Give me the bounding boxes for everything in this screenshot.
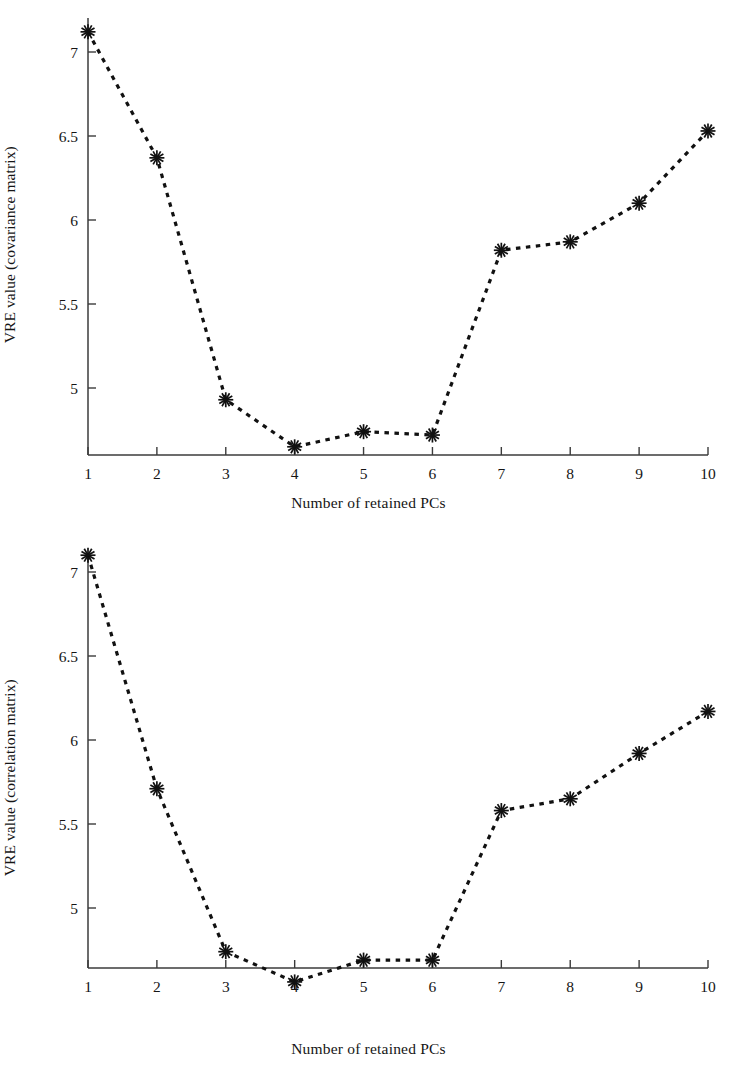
y-axis-tick-label: 6.5 (59, 128, 79, 145)
y-axis-tick-label: 7 (70, 44, 78, 61)
y-axis-tick-label: 6 (70, 212, 78, 229)
data-series-line (88, 32, 708, 447)
data-point-marker (632, 746, 647, 761)
covariance-chart-panel: VRE value (covariance matrix) 55.566.571… (0, 0, 737, 540)
data-series-line (88, 555, 708, 982)
x-axis-tick-label: 8 (566, 978, 574, 995)
data-point-marker (356, 953, 371, 968)
x-axis-tick-label: 5 (360, 465, 368, 482)
data-point-marker (149, 781, 164, 796)
data-point-marker (494, 243, 509, 258)
y-axis-tick-label: 6.5 (59, 648, 79, 665)
covariance-plot-svg: 55.566.5712345678910 (0, 0, 737, 500)
data-point-marker (563, 791, 578, 806)
data-point-marker (494, 803, 509, 818)
y-axis-tick-label: 5.5 (59, 816, 79, 833)
data-point-marker (287, 974, 302, 989)
y-axis-tick-label: 5 (70, 900, 78, 917)
data-point-marker (356, 424, 371, 439)
x-axis-tick-label: 8 (566, 465, 574, 482)
data-point-marker (425, 428, 440, 443)
x-axis-tick-label: 10 (700, 465, 716, 482)
data-point-marker (425, 953, 440, 968)
data-point-marker (563, 234, 578, 249)
x-axis-tick-label: 1 (84, 978, 92, 995)
x-axis-tick-label: 2 (153, 978, 161, 995)
y-axis-tick-label: 5.5 (59, 296, 79, 313)
x-axis-tick-label: 9 (635, 978, 643, 995)
data-point-marker (218, 944, 233, 959)
x-axis-tick-label: 5 (360, 978, 368, 995)
data-point-marker (81, 24, 96, 39)
x-axis-label: Number of retained PCs (0, 494, 737, 512)
x-axis-tick-label: 2 (153, 465, 161, 482)
x-axis-tick-label: 7 (497, 978, 505, 995)
data-point-marker (81, 548, 96, 563)
x-axis-tick-label: 3 (222, 465, 230, 482)
x-axis-tick-label: 10 (700, 978, 716, 995)
x-axis-tick-label: 7 (497, 465, 505, 482)
x-axis-tick-label: 4 (291, 465, 299, 482)
x-axis-tick-label: 9 (635, 465, 643, 482)
data-point-marker (701, 704, 716, 719)
data-point-marker (149, 150, 164, 165)
x-axis-tick-label: 3 (222, 978, 230, 995)
correlation-plot-svg: 55.566.5712345678910 (0, 540, 737, 1040)
x-axis-label: Number of retained PCs (0, 1040, 737, 1058)
y-axis-tick-label: 6 (70, 732, 78, 749)
data-point-marker (701, 123, 716, 138)
x-axis-tick-label: 6 (429, 465, 437, 482)
x-axis-tick-label: 6 (429, 978, 437, 995)
y-axis-tick-label: 5 (70, 380, 78, 397)
y-axis-tick-label: 7 (70, 564, 78, 581)
correlation-chart-panel: VRE value (correlation matrix) 55.566.57… (0, 540, 737, 1091)
x-axis-tick-label: 1 (84, 465, 92, 482)
